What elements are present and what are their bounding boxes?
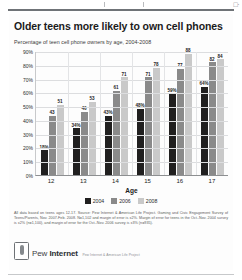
bar-group: 48%7178 [132,52,164,175]
plot-wrapper: 0%10%20%30%40%50%60%70%80%90% 18%435134%… [12,52,230,197]
phone-icon [14,242,29,260]
bar-value-label: 84 [217,54,222,59]
scan-corner-mark: □· [233,1,239,8]
bar-value-label: 51 [57,99,62,104]
group-separator [132,52,133,175]
legend-label-2006: 2006 [119,198,131,204]
x-axis-title: Age [35,187,228,194]
bar-value-label: 53 [89,96,94,101]
x-axis-tick-13: 13 [67,178,99,184]
y-axis-tick: 0% [26,173,33,179]
page-top-rule [8,9,234,11]
y-axis-tick: 40% [23,118,33,124]
page-bottom-rule [8,274,234,275]
bar-value-label: 43% [103,110,112,115]
bar-group: 18%4351 [36,52,68,175]
y-axis: 0%10%20%30%40%50%60%70%80%90% [12,52,34,176]
y-axis-tick: 60% [23,90,33,96]
legend-label-2004: 2004 [93,198,105,204]
bar-2006-age-15: 71 [145,77,152,175]
legend-label-2008: 2008 [146,198,158,204]
x-axis-tick-17: 17 [196,178,228,184]
group-separator [164,52,165,175]
scan-artifact-tick [143,2,144,7]
bar-2006-age-12: 43 [49,116,56,175]
chart-subtitle: Percentage of teen cell phone owners by … [14,39,228,46]
bar-group: 59%7788 [164,52,196,175]
y-axis-tick: 50% [23,104,33,110]
scan-artifact-tick [104,2,105,7]
legend-item-2004: 2004 [85,198,105,204]
legend-item-2008: 2008 [138,198,158,204]
logo-name-bold: Internet [49,249,78,258]
x-axis-tick-14: 14 [99,178,131,184]
bar-2008-age-16: 88 [185,54,192,175]
bar-2004-age-15: 48% [137,109,144,175]
y-axis-tick: 90% [23,49,33,55]
chart-footnote: All data based on teens ages 12-17. Sour… [14,211,228,227]
bar-group: 43%6171 [100,52,132,175]
y-axis-tick: 20% [23,145,33,151]
y-axis-tick: 80% [23,63,33,69]
bar-value-label: 34% [71,123,80,128]
bar-2008-age-12: 51 [57,105,64,175]
x-axis-tick-15: 15 [132,178,164,184]
bar-value-label: 71 [145,72,150,77]
y-axis-tick: 10% [23,159,33,165]
bar-value-label: 43 [49,110,54,115]
bar-2008-age-14: 71 [121,77,128,175]
bar-group: 64%8284 [196,52,228,175]
chart-legend: 200420062008 [9,198,233,204]
chart-card: Older teens more likely to own cell phon… [9,14,233,270]
group-separator [68,52,69,175]
bar-2004-age-14: 43% [105,116,112,175]
y-axis-tick: 70% [23,77,33,83]
legend-item-2006: 2006 [111,198,131,204]
x-axis-tick-16: 16 [164,178,196,184]
pew-internet-logo: Pew Internet Pew Internet & American Lif… [14,242,140,260]
bar-2006-age-16: 77 [177,69,184,175]
legend-swatch-2006 [111,198,117,204]
logo-tagline: Pew Internet & American Life Project [82,253,139,257]
group-separator [196,52,197,175]
logo-text: Pew Internet Pew Internet & American Lif… [32,243,140,259]
plot-area: 18%435134%465343%617148%717859%778864%82… [35,52,228,176]
legend-swatch-2004 [85,198,91,204]
bar-group: 34%4653 [68,52,100,175]
bar-value-label: 82 [209,57,214,62]
bar-value-label: 71 [121,72,126,77]
y-axis-tick: 30% [23,132,33,138]
bar-value-label: 61 [113,85,118,90]
bar-2008-age-13: 53 [89,102,96,175]
x-axis: 121314151617 [35,178,228,184]
bar-2008-age-17: 84 [217,59,224,175]
legend-swatch-2008 [138,198,144,204]
logo-name: Pew Internet [32,249,78,258]
logo-name-light: Pew [32,249,49,258]
chart-title: Older teens more likely to own cell phon… [14,20,228,32]
group-separator [100,52,101,175]
bar-value-label: 64% [199,81,208,86]
x-axis-tick-12: 12 [35,178,67,184]
